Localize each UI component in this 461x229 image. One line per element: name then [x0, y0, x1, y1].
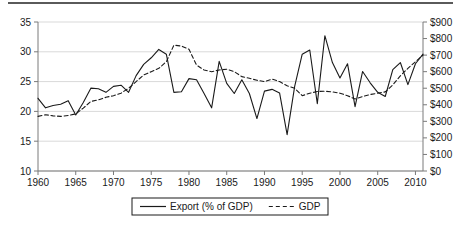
tick-label-left-axis: 25: [20, 76, 32, 87]
tick-label-left-axis: 10: [20, 166, 32, 177]
gridlines-group: [38, 22, 423, 171]
tick-label-right-axis: $300: [430, 116, 453, 127]
tick-label-x-axis: 2005: [367, 177, 390, 188]
tick-label-left-axis: 30: [20, 46, 32, 57]
tick-label-left-axis: 35: [20, 17, 32, 28]
tick-label-x-axis: 1970: [102, 177, 125, 188]
series-line-export: [38, 36, 423, 135]
tick-label-x-axis: 1980: [178, 177, 201, 188]
tick-label-x-axis: 1990: [253, 177, 276, 188]
tick-label-x-axis: 1985: [216, 177, 239, 188]
tick-label-x-axis: 2010: [404, 177, 427, 188]
tick-label-right-axis: $0: [430, 166, 442, 177]
tick-label-right-axis: $700: [430, 50, 453, 61]
legend-label-export[interactable]: Export (% of GDP): [170, 201, 253, 212]
tick-label-left-axis: 20: [20, 106, 32, 117]
axis-ticks-group: [34, 22, 427, 175]
chart-canvas: 101520253035$0$100$200$300$400$500$600$7…: [0, 0, 461, 229]
tick-label-right-axis: $200: [430, 132, 453, 143]
tick-label-x-axis: 1995: [291, 177, 314, 188]
axis-tick-labels-group: 101520253035$0$100$200$300$400$500$600$7…: [20, 17, 453, 189]
tick-label-right-axis: $900: [430, 17, 453, 28]
figure-container: 101520253035$0$100$200$300$400$500$600$7…: [0, 0, 461, 229]
data-series-group: [38, 36, 423, 135]
tick-label-right-axis: $100: [430, 149, 453, 160]
tick-label-right-axis: $600: [430, 66, 453, 77]
legend-label-gdp[interactable]: GDP: [299, 201, 321, 212]
chart-legend: Export (% of GDP)GDP: [132, 198, 328, 215]
tick-label-right-axis: $400: [430, 99, 453, 110]
axis-lines-group: [38, 22, 423, 171]
tick-label-x-axis: 1960: [27, 177, 50, 188]
tick-label-right-axis: $800: [430, 33, 453, 44]
tick-label-right-axis: $500: [430, 83, 453, 94]
tick-label-x-axis: 1975: [140, 177, 163, 188]
tick-label-left-axis: 15: [20, 136, 32, 147]
tick-label-x-axis: 1965: [65, 177, 88, 188]
series-line-gdp: [38, 45, 423, 116]
tick-label-x-axis: 2000: [329, 177, 352, 188]
